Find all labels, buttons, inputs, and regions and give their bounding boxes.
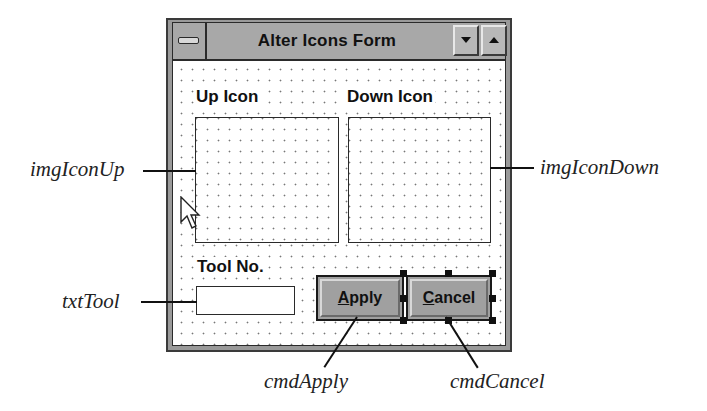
txt-tool-input[interactable] — [196, 286, 295, 315]
callout-line-txt-tool — [141, 301, 197, 303]
selection-handle-w[interactable] — [400, 295, 407, 302]
selection-handle-se[interactable] — [489, 317, 496, 324]
selection-handle-ne[interactable] — [489, 270, 496, 277]
img-icon-up[interactable] — [195, 117, 339, 243]
callout-line-img-icon-down — [490, 167, 534, 169]
window-title: Alter Icons Form — [209, 23, 445, 59]
mouse-pointer-icon — [180, 196, 202, 232]
apply-label-rest: pply — [349, 289, 382, 306]
selection-handle-nw[interactable] — [400, 270, 407, 277]
form-design-grid: Up Icon Down Icon Tool No. Apply Cancel — [173, 61, 505, 345]
callout-cmd-cancel: cmdCancel — [450, 369, 544, 394]
tool-no-label: Tool No. — [195, 257, 266, 277]
maximize-button[interactable] — [481, 25, 507, 56]
apply-accelerator: A — [338, 289, 350, 306]
down-icon-label: Down Icon — [345, 87, 435, 107]
title-bar[interactable]: Alter Icons Form — [173, 23, 505, 61]
callout-line-img-icon-up — [143, 170, 196, 172]
callout-txt-tool: txtTool — [62, 289, 120, 314]
apply-button[interactable]: Apply — [316, 275, 404, 321]
minimize-button[interactable] — [453, 25, 479, 56]
window-frame: Alter Icons Form Up Icon Down Icon Tool … — [172, 22, 506, 346]
cancel-button-label: Cancel — [423, 289, 475, 307]
callout-cmd-apply: cmdApply — [264, 369, 348, 394]
control-menu-box-icon — [178, 37, 199, 44]
selection-handle-n[interactable] — [445, 270, 452, 277]
control-menu-box[interactable] — [173, 23, 207, 59]
triangle-down-icon — [461, 37, 471, 43]
up-icon-label: Up Icon — [194, 87, 260, 107]
apply-button-label: Apply — [338, 289, 382, 307]
cancel-label-rest: ancel — [434, 289, 475, 306]
cancel-accelerator: C — [423, 289, 435, 306]
callout-img-icon-up: imgIconUp — [30, 157, 124, 182]
selection-handle-sw[interactable] — [400, 317, 407, 324]
img-icon-down[interactable] — [348, 117, 491, 243]
cancel-button[interactable]: Cancel — [406, 275, 492, 321]
alter-icons-form-window: Alter Icons Form Up Icon Down Icon Tool … — [166, 18, 512, 352]
callout-img-icon-down: imgIconDown — [540, 155, 659, 180]
selection-handle-e[interactable] — [489, 295, 496, 302]
triangle-up-icon — [489, 37, 499, 43]
